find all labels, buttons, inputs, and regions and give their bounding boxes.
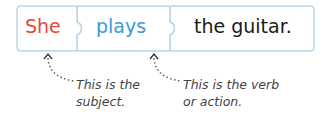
annotation-verb: This is the verb or action. — [183, 76, 303, 110]
annotation-verb-line1: This is the verb — [183, 76, 303, 93]
word-subject: She — [25, 14, 61, 38]
annotation-verb-line2: or action. — [183, 93, 303, 110]
arrow-subject-icon — [44, 54, 74, 81]
annotation-subject-line2: subject. — [76, 93, 166, 110]
word-verb: plays — [96, 14, 146, 38]
word-object: the guitar. — [194, 14, 292, 38]
annotation-subject-line1: This is the — [76, 76, 166, 93]
annotation-subject: This is the subject. — [76, 76, 166, 110]
